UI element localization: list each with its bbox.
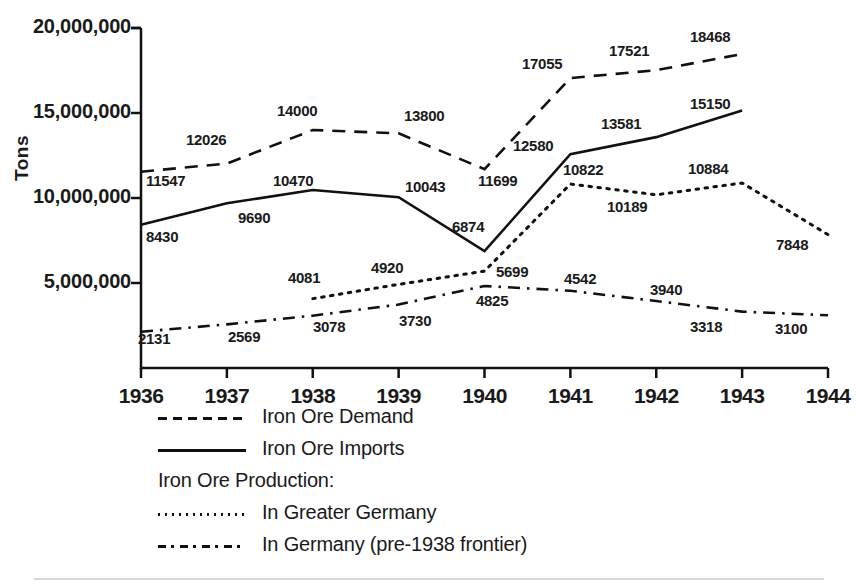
data-point-label: 10884 (688, 160, 728, 177)
data-point-label: 10043 (405, 178, 445, 195)
data-point-label: 8430 (146, 228, 178, 245)
data-point-label: 12026 (186, 131, 226, 148)
data-point-label: 4081 (288, 269, 320, 286)
data-point-label: 13800 (404, 107, 444, 124)
y-axis-title: Tons (11, 141, 33, 181)
x-axis-tick-label: 1944 (788, 384, 856, 408)
data-point-label: 13581 (601, 115, 641, 132)
chart-legend: Iron Ore Demand Iron Ore Imports Iron Or… (140, 405, 660, 565)
axis-lines (141, 28, 828, 368)
data-point-label: 18468 (690, 28, 730, 45)
data-point-label: 14000 (277, 102, 317, 119)
legend-label: Iron Ore Demand (262, 405, 414, 428)
data-point-label: 3078 (313, 318, 345, 335)
legend-key-dashed-line-icon (158, 417, 246, 420)
data-point-label: 6874 (452, 218, 484, 235)
legend-item-in-germany-pre-1938-frontier: In Germany (pre-1938 frontier) (140, 533, 660, 565)
y-axis-tick-label: 5,000,000 (0, 270, 131, 293)
data-point-label: 2131 (138, 330, 170, 347)
data-point-label: 10822 (563, 161, 603, 178)
legend-label: In Greater Germany (262, 501, 436, 524)
data-point-label: 9690 (238, 209, 270, 226)
legend-key-solid-line-icon (158, 449, 246, 452)
data-point-label: 10189 (607, 198, 647, 215)
legend-label: In Germany (pre-1938 frontier) (262, 533, 527, 556)
data-point-label: 4920 (371, 259, 403, 276)
data-point-label: 4542 (564, 270, 596, 287)
legend-key-dash-dot-line-icon (158, 545, 246, 548)
legend-group-heading-iron-ore-production: Iron Ore Production: (140, 469, 660, 501)
data-point-label: 3730 (399, 312, 431, 329)
y-axis-tick-label: 20,000,000 (0, 15, 131, 38)
legend-item-iron-ore-demand: Iron Ore Demand (140, 405, 660, 437)
x-axis-tick-label: 1943 (702, 384, 782, 408)
legend-label: Iron Ore Production: (158, 469, 334, 492)
data-point-label: 2569 (228, 328, 260, 345)
y-axis-tick-label: 10,000,000 (0, 185, 131, 208)
data-point-label: 7848 (776, 236, 808, 253)
y-axis-tick-label: 15,000,000 (0, 100, 131, 123)
data-point-label: 11547 (146, 172, 185, 189)
data-point-label: 17055 (522, 55, 562, 72)
footer-rule (34, 578, 824, 580)
data-point-label: 3940 (650, 281, 682, 298)
legend-key-dotted-line-icon (158, 513, 246, 516)
data-point-label: 12580 (513, 137, 553, 154)
legend-label: Iron Ore Imports (262, 437, 404, 460)
legend-item-iron-ore-imports: Iron Ore Imports (140, 437, 660, 469)
data-point-label: 3100 (775, 320, 807, 337)
data-point-label: 11699 (478, 172, 517, 189)
data-point-label: 3318 (690, 318, 722, 335)
data-point-label: 17521 (609, 42, 649, 59)
data-point-label: 10470 (273, 172, 313, 189)
legend-item-in-greater-germany: In Greater Germany (140, 501, 660, 533)
data-point-label: 15150 (690, 95, 730, 112)
data-point-label: 5699 (496, 263, 528, 280)
data-point-label: 4825 (476, 292, 508, 309)
